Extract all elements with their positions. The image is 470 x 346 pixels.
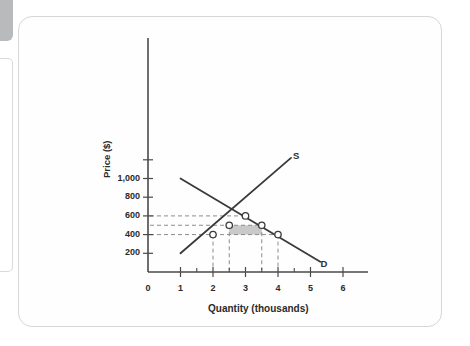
marker-equilibrium — [242, 213, 248, 219]
curve-S — [181, 158, 292, 253]
x-tick-label-3: 3 — [231, 283, 261, 293]
x-axis-title: Quantity (thousands) — [208, 303, 309, 314]
curves-layer — [181, 158, 321, 262]
x-tick-label-5: 5 — [296, 283, 326, 293]
y-tick-label-600: 600 — [96, 210, 140, 220]
axes-layer — [143, 38, 368, 277]
y-tick-label-200: 200 — [96, 247, 140, 257]
marker-demand-at-500 — [259, 222, 265, 228]
shaded-region-layer — [229, 225, 262, 234]
x-tick-label-0: 0 — [133, 283, 163, 293]
x-tick-label-1: 1 — [166, 283, 196, 293]
y-tick-label-1000: 1,000 — [96, 173, 140, 183]
marker-demand-at-400 — [275, 231, 281, 237]
x-tick-label-6: 6 — [328, 283, 358, 293]
curve-D — [181, 179, 321, 262]
supply-curve-label: S — [293, 150, 299, 161]
x-tick-label-4: 4 — [263, 283, 293, 293]
x-tick-label-2: 2 — [198, 283, 228, 293]
y-tick-label-800: 800 — [96, 191, 140, 201]
marker-supply-at-500 — [226, 222, 232, 228]
page-background: Price ($) Quantity (thousands) 200400600… — [0, 0, 470, 346]
shaded-rectangle — [229, 225, 262, 234]
supply-demand-chart — [0, 0, 470, 346]
demand-curve-label: D — [321, 258, 328, 269]
marker-supply-at-400 — [210, 231, 216, 237]
y-tick-label-400: 400 — [96, 229, 140, 239]
